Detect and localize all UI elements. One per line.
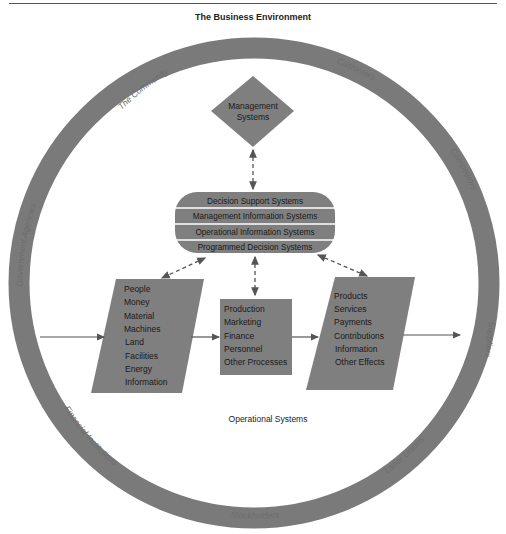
process-item: Other Processes [224, 357, 287, 367]
input-item: Facilities [125, 351, 158, 361]
process-item: Marketing [224, 317, 262, 327]
output-item: Information [335, 344, 378, 354]
input-item: Land [125, 337, 144, 347]
output-item: Other Effects [335, 357, 384, 367]
output-item: Contributions [334, 331, 384, 341]
input-item: Material [124, 311, 154, 321]
input-item: People [124, 284, 151, 294]
output-item: Services [334, 304, 367, 314]
management-label-line1: Management [228, 101, 278, 111]
process-item: Production [224, 304, 265, 314]
process-item: Personnel [224, 344, 262, 354]
input-item: Machines [124, 324, 160, 334]
input-item: Information [125, 377, 168, 387]
band-operational-information: Operational Information Systems [195, 228, 314, 237]
process-item: Finance [224, 331, 255, 341]
management-label-line2: Systems [237, 112, 270, 122]
diagram-title: The Business Environment [195, 12, 311, 22]
dashed-arrow-info-outputs [318, 255, 367, 276]
operational-systems-caption: Operational Systems [229, 414, 308, 424]
band-programmed-decision: Programmed Decision Systems [198, 243, 313, 252]
output-item: Products [334, 291, 368, 301]
output-item: Payments [334, 317, 372, 327]
ring-label-stockholders: Stockholders [230, 509, 280, 520]
dashed-arrow-info-inputs [162, 258, 205, 278]
band-management-information: Management Information Systems [193, 212, 318, 221]
input-item: Energy [125, 364, 153, 374]
band-decision-support: Decision Support Systems [207, 197, 303, 206]
business-environment-diagram: The Business Environment The Community C… [0, 0, 506, 534]
input-item: Money [124, 297, 150, 307]
